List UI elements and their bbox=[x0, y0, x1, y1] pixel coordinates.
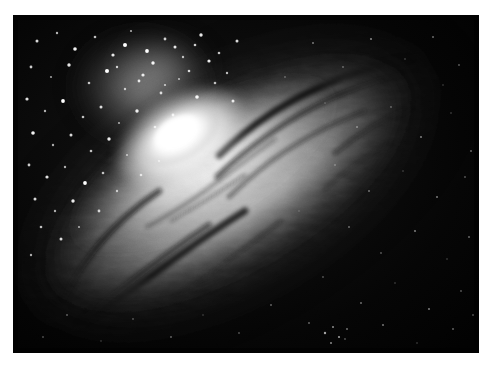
image-canvas: Grayscale astronomical photograph of an … bbox=[0, 0, 494, 369]
galaxy-scene bbox=[13, 15, 479, 353]
astronomical-photograph bbox=[13, 15, 479, 353]
film-grain-overlay bbox=[13, 15, 479, 353]
